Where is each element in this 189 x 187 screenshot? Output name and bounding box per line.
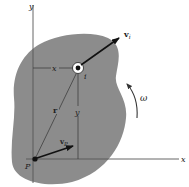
rigid-body-diagram: y x x y r i vi P vP ω [0,0,189,187]
angular-velocity-arrow [127,84,137,118]
angular-velocity-label: ω [140,93,148,103]
point-p-label: P [24,162,31,171]
point-i-label: i [84,72,87,81]
point-p-dot [32,156,37,161]
x-distance-label: x [52,64,57,73]
velocity-i-label: vi [123,29,131,40]
y-axis-label: y [28,2,34,11]
point-i-dot [76,66,81,71]
y-distance-label: y [74,108,80,117]
x-axis-label: x [181,155,186,164]
